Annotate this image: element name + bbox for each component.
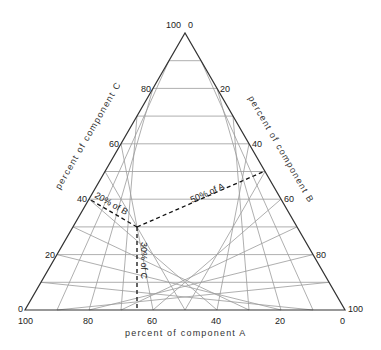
axis-c-label: percent of component C [53,80,123,191]
svg-text:80: 80 [83,316,93,326]
grid-lines [41,61,329,310]
svg-text:40: 40 [252,139,262,149]
svg-text:80: 80 [316,250,326,260]
svg-text:0: 0 [18,304,23,314]
svg-text:80: 80 [141,84,151,94]
svg-text:20: 20 [220,84,230,94]
svg-text:20: 20 [45,250,55,260]
annotation-a: 50% of A [189,181,226,205]
axis-a-label: percent of component A [125,328,246,338]
svg-text:60: 60 [109,139,119,149]
svg-text:0: 0 [340,316,345,326]
annotation-c: 30% of C [139,242,149,280]
svg-text:60: 60 [147,316,157,326]
svg-text:60: 60 [284,194,294,204]
axis-a-ticks: 100 80 60 40 20 0 [18,316,345,326]
axis-c-ticks: 0 20 40 60 80 100 [18,20,181,314]
svg-text:100: 100 [348,304,363,314]
svg-text:40: 40 [211,316,221,326]
svg-text:100: 100 [18,316,33,326]
annotation-b: 20% of B [93,190,130,217]
svg-text:100: 100 [166,20,181,30]
svg-text:0: 0 [188,20,193,30]
ternary-diagram: 100 80 60 40 20 0 percent of component A… [0,0,381,350]
axis-b-ticks: 0 20 40 60 80 100 [188,20,363,314]
svg-text:20: 20 [275,316,285,326]
axis-b-label: percent of component B [246,94,316,205]
svg-text:40: 40 [77,194,87,204]
